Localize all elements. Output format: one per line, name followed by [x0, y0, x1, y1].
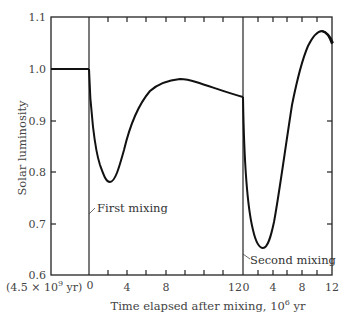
y-tick-label: 1.0	[29, 63, 47, 76]
y-tick-label: 0.7	[29, 218, 47, 231]
x-axis-label: Time elapsed after mixing, 106 yr	[110, 298, 306, 313]
y-ticks-left	[51, 121, 56, 224]
plot-frame	[51, 17, 332, 275]
first-mixing-leader	[89, 208, 95, 214]
x-tick-label: 8	[163, 281, 170, 294]
y-tick-label: 1.1	[29, 11, 47, 24]
y-axis-label: Solar luminosity	[15, 100, 29, 196]
x-tick-label: 12	[325, 281, 339, 294]
luminosity-chart: First mixing Second mixing 1.1 1.0 0.9 0…	[0, 0, 354, 327]
pre-mixing-time-label: (4.5 × 109 yr)	[6, 279, 82, 294]
x-ticks-second	[258, 17, 317, 275]
y-tick-label: 0.9	[29, 115, 47, 128]
x-tick-label: 4	[270, 281, 277, 294]
second-mixing-leader	[243, 254, 250, 259]
first-mixing-annotation: First mixing	[97, 201, 168, 215]
x-tick-label: 4	[124, 281, 131, 294]
y-tick-label: 0.8	[29, 166, 47, 179]
x-tick-label: 0	[87, 279, 94, 292]
x-tick-label: 8	[299, 281, 306, 294]
second-mixing-annotation: Second mixing	[250, 253, 337, 267]
x-tick-label: 12	[228, 281, 242, 294]
y-ticks-right	[327, 121, 332, 224]
first-mixing-curve	[89, 69, 243, 182]
second-mixing-curve	[243, 31, 333, 248]
x-tick-label: 0	[243, 281, 250, 294]
